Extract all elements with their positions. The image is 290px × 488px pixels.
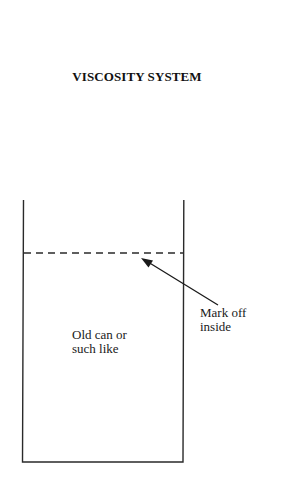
can-label-line-2: such like	[72, 342, 127, 356]
mark-off-label-line-2: inside	[200, 320, 246, 334]
mark-off-label: Mark off inside	[200, 306, 246, 334]
can-label: Old can or such like	[72, 328, 127, 356]
pointer-arrow	[141, 258, 218, 305]
arrowhead-icon	[141, 258, 153, 268]
can-label-line-1: Old can or	[72, 328, 127, 342]
mark-off-label-line-1: Mark off	[200, 306, 246, 320]
viscosity-diagram	[0, 0, 290, 488]
